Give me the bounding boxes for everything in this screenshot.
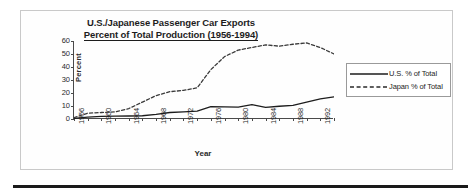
legend-key-solid-line-icon xyxy=(349,70,389,78)
series-line-japan xyxy=(74,43,334,118)
legend-item-japan: Japan % of Total xyxy=(349,80,448,93)
legend-item-us: U.S. % of Total xyxy=(349,67,448,80)
y-tick-label: 60 xyxy=(62,37,70,45)
y-tick-label: 30 xyxy=(62,76,70,84)
y-tick-label: 40 xyxy=(62,63,70,71)
chart-legend: U.S. % of Total Japan % of Total xyxy=(346,63,451,97)
plot-area: Percent 0102030405060 195619601964196819… xyxy=(73,41,333,119)
chart-title-line2: Percent of Total Production (1956-1994) xyxy=(84,29,258,42)
legend-label-japan: Japan % of Total xyxy=(389,82,443,91)
y-tick-label: 50 xyxy=(62,50,70,58)
chart-series-svg xyxy=(74,41,334,119)
chart-title-line1: U.S./Japanese Passenger Car Exports xyxy=(87,17,255,28)
y-tick-label: 10 xyxy=(62,102,70,110)
x-axis-label: Year xyxy=(73,149,333,158)
y-tick-label: 20 xyxy=(62,89,70,97)
series-line-us xyxy=(74,97,334,118)
legend-label-us: U.S. % of Total xyxy=(389,69,437,78)
line-chart: U.S./Japanese Passenger Car Exports Perc… xyxy=(21,11,454,171)
horizontal-rule xyxy=(13,185,468,188)
y-tick-label: 0 xyxy=(66,115,70,123)
legend-key-dashed-line-icon xyxy=(349,83,389,91)
x-tick-mark xyxy=(334,118,335,121)
document-scan-frame: U.S./Japanese Passenger Car Exports Perc… xyxy=(20,10,453,170)
